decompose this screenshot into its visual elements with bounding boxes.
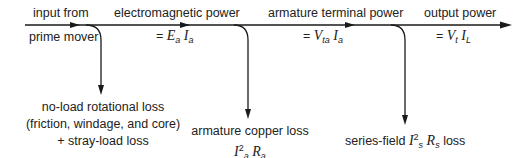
loss-rotational: no-load rotational loss (friction, winda… bbox=[23, 99, 183, 150]
arrowhead-armature-loss bbox=[245, 109, 251, 119]
loss-rotational-line2: (friction, windage, and core) bbox=[23, 116, 183, 133]
loss-armature-line2: I2a Ra bbox=[190, 140, 310, 158]
loss-armature: armature copper loss I2a Ra + brush-cont… bbox=[190, 123, 310, 158]
loss-rotational-line3: + stray-load loss bbox=[23, 133, 183, 150]
stage-output-label: output power bbox=[424, 6, 496, 20]
arrowhead-output bbox=[500, 22, 512, 29]
arrowhead-field-loss bbox=[402, 115, 408, 125]
branch-field-loss bbox=[391, 25, 405, 118]
loss-armature-line1: armature copper loss bbox=[190, 123, 310, 140]
stage-terminal-equation: = Vta Ia bbox=[303, 29, 343, 47]
stage-electromagnetic-label: electromagnetic power bbox=[114, 6, 240, 20]
stage-output-equation: = Vt IL bbox=[436, 29, 471, 47]
arrowhead-rotational-loss bbox=[98, 85, 104, 95]
loss-shunt-field: + shunt-field I2f Rf loss bbox=[340, 157, 480, 158]
arrowhead-input bbox=[70, 22, 80, 28]
loss-series-field: series-field I2s Rs loss bbox=[340, 129, 480, 154]
loss-field: series-field I2s Rs loss + shunt-field I… bbox=[340, 129, 480, 158]
loss-rotational-line1: no-load rotational loss bbox=[23, 99, 183, 116]
stage-terminal-label: armature terminal power bbox=[268, 6, 403, 20]
branch-armature-loss bbox=[234, 25, 248, 112]
arrowhead-terminal bbox=[345, 22, 355, 28]
stage-input-label: input from bbox=[33, 6, 89, 20]
stage-electromagnetic-equation: = Ea Ia bbox=[156, 29, 194, 47]
stage-input-sublabel: prime mover bbox=[29, 30, 98, 44]
